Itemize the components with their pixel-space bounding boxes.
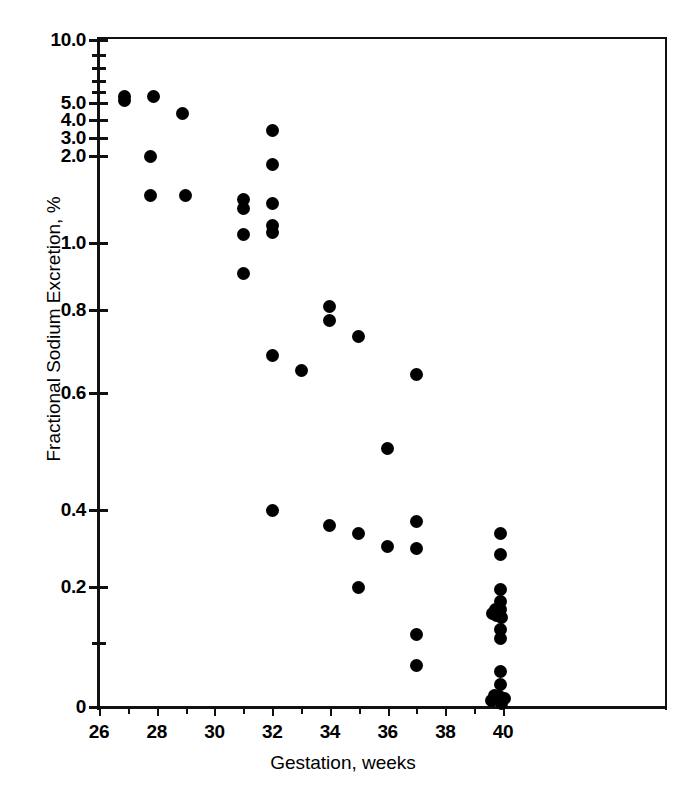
- data-point: [266, 158, 279, 171]
- data-point: [352, 330, 365, 343]
- data-point: [410, 515, 423, 528]
- data-point: [410, 368, 423, 381]
- data-point: [410, 542, 423, 555]
- data-point: [323, 519, 336, 532]
- data-point: [144, 150, 157, 163]
- data-point: [266, 197, 279, 210]
- data-point: [381, 540, 394, 553]
- data-point: [494, 632, 507, 645]
- data-point: [237, 228, 250, 241]
- data-point: [237, 202, 250, 215]
- data-point: [266, 226, 279, 239]
- data-point: [494, 665, 507, 678]
- data-point: [352, 581, 365, 594]
- data-point: [266, 124, 279, 137]
- data-point: [266, 504, 279, 517]
- data-point: [352, 527, 365, 540]
- data-point: [410, 659, 423, 672]
- data-point: [295, 364, 308, 377]
- scatter-plot-figure: 10.05.04.03.02.01.00.80.60.40.20 2628303…: [0, 0, 686, 789]
- x-axis-title: Gestation, weeks: [0, 752, 686, 774]
- data-point: [410, 628, 423, 641]
- data-point: [323, 300, 336, 313]
- data-point: [323, 314, 336, 327]
- data-point: [118, 94, 131, 107]
- data-point: [144, 189, 157, 202]
- y-axis-title: Fractional Sodium Excretion, %: [43, 179, 65, 479]
- data-point: [266, 349, 279, 362]
- data-point: [381, 442, 394, 455]
- data-point: [237, 267, 250, 280]
- data-point: [179, 189, 192, 202]
- data-point: [494, 548, 507, 561]
- data-point: [176, 107, 189, 120]
- data-point: [495, 697, 508, 710]
- data-point: [147, 90, 160, 103]
- data-points-layer: [0, 0, 686, 789]
- data-point: [494, 527, 507, 540]
